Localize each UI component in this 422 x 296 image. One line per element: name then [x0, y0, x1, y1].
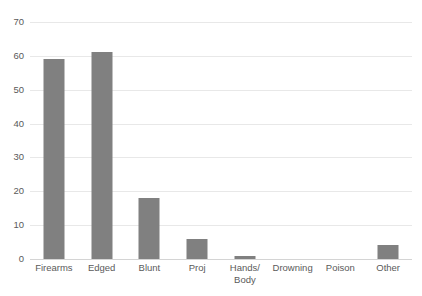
- y-axis-tick-label: 70: [13, 17, 24, 27]
- bars-layer: [30, 22, 412, 259]
- y-axis: 706050403020100: [0, 0, 30, 296]
- x-axis-tick-label: Other: [376, 262, 400, 274]
- x-axis-tick-label: Drowning: [273, 262, 313, 274]
- bar-slot: [173, 22, 221, 259]
- bar[interactable]: [187, 239, 208, 259]
- bar[interactable]: [378, 245, 399, 259]
- bar-slot: [30, 22, 78, 259]
- bar[interactable]: [139, 198, 160, 259]
- bar-slot: [126, 22, 174, 259]
- y-axis-tick-label: 50: [13, 85, 24, 95]
- bar[interactable]: [234, 256, 255, 259]
- y-axis-tick-label: 60: [13, 51, 24, 61]
- y-axis-tick-label: 20: [13, 186, 24, 196]
- y-axis-tick-label: 40: [13, 119, 24, 129]
- x-axis: FirearmsEdgedBluntProjHands/ BodyDrownin…: [30, 262, 412, 296]
- x-axis-tick-label: Proj: [189, 262, 206, 274]
- bar-slot: [317, 22, 365, 259]
- y-axis-tick-label: 10: [13, 220, 24, 230]
- x-axis-tick-label: Firearms: [35, 262, 72, 274]
- bar-slot: [78, 22, 126, 259]
- bar[interactable]: [91, 52, 112, 259]
- bar-chart: 706050403020100 FirearmsEdgedBluntProjHa…: [0, 0, 422, 296]
- bar-slot: [364, 22, 412, 259]
- x-axis-tick-label: Poison: [326, 262, 355, 274]
- bar-slot: [269, 22, 317, 259]
- y-axis-tick-label: 30: [13, 152, 24, 162]
- x-axis-tick-label: Hands/ Body: [230, 262, 260, 286]
- axis-baseline: [30, 259, 412, 260]
- bar[interactable]: [43, 59, 64, 259]
- bar-slot: [221, 22, 269, 259]
- x-axis-tick-label: Edged: [88, 262, 115, 274]
- x-axis-tick-label: Blunt: [139, 262, 161, 274]
- y-axis-tick-label: 0: [19, 254, 24, 264]
